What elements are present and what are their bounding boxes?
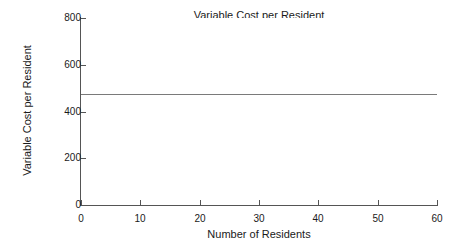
y-tick-mark: [81, 18, 86, 19]
x-tick-mark: [378, 200, 379, 205]
x-tick-label-wrap: 60: [417, 208, 457, 226]
x-axis-spine: [80, 205, 438, 206]
series-line-variable-cost: [81, 94, 437, 95]
x-tick-label-wrap: 30: [239, 208, 279, 226]
x-tick-mark: [81, 200, 82, 205]
x-tick-mark: [200, 200, 201, 205]
y-tick-mark: [81, 158, 86, 159]
x-tick-mark: [318, 200, 319, 205]
x-tick-label: 20: [194, 213, 205, 224]
x-tick-label-wrap: 20: [180, 208, 220, 226]
y-axis-label: Variable Cost per Resident: [21, 16, 34, 206]
x-tick-mark: [437, 200, 438, 205]
x-tick-label: 40: [312, 213, 323, 224]
x-tick-mark: [259, 200, 260, 205]
x-axis-label: Number of Residents: [81, 228, 437, 241]
x-tick-label: 60: [431, 213, 442, 224]
x-tick-label: 10: [134, 213, 145, 224]
x-tick-label-wrap: 50: [358, 208, 398, 226]
chart-figure: Variable Cost per Resident 0200400600800…: [0, 0, 461, 251]
x-tick-label-wrap: 0: [61, 208, 101, 226]
x-tick-mark: [140, 200, 141, 205]
x-tick-label: 50: [372, 213, 383, 224]
x-tick-label: 0: [78, 213, 84, 224]
y-tick-label: 600: [47, 60, 81, 70]
y-tick-mark: [81, 112, 86, 113]
x-tick-label-wrap: 40: [298, 208, 338, 226]
y-tick-mark: [81, 205, 86, 206]
plot-area: [81, 18, 437, 205]
y-tick-mark: [81, 65, 86, 66]
y-tick-label: 200: [47, 153, 81, 163]
x-tick-label: 30: [253, 213, 264, 224]
y-tick-label: 400: [47, 107, 81, 117]
y-tick-label: 800: [47, 13, 81, 23]
x-tick-label-wrap: 10: [120, 208, 160, 226]
